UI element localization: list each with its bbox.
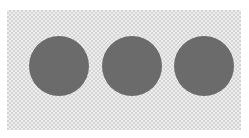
transparent-canvas	[7, 10, 241, 130]
gray-circle-1	[29, 36, 89, 96]
gray-circle-3	[174, 36, 234, 96]
gray-circle-2	[102, 36, 162, 96]
